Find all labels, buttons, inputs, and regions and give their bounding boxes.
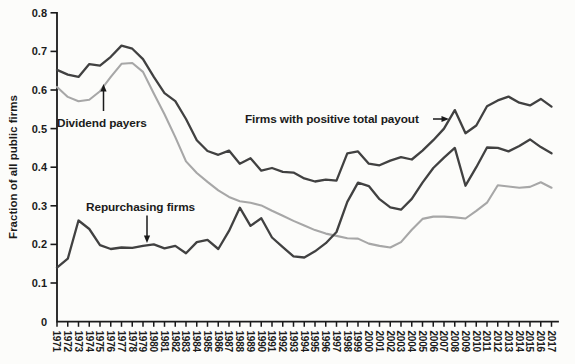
x-tick-label: 2016 <box>535 331 546 353</box>
x-tick-label: 1989 <box>245 331 256 353</box>
repurchasing-firms-label: Repurchasing firms <box>86 200 195 214</box>
x-tick-label: 1994 <box>299 331 310 353</box>
x-tick-label: 1992 <box>277 331 288 353</box>
x-tick-label: 1980 <box>148 331 159 353</box>
x-tick-label: 1993 <box>288 331 299 353</box>
y-axis-title: Fraction of all public firms <box>7 95 19 239</box>
x-tick-label: 2005 <box>417 331 428 353</box>
x-tick-label: 2012 <box>492 331 503 353</box>
x-tick-label: 2017 <box>546 331 557 353</box>
x-tick-label: 2009 <box>460 331 471 353</box>
y-tick-label: 0.6 <box>32 84 47 96</box>
x-tick-label: 1977 <box>116 331 127 353</box>
x-tick-label: 1972 <box>62 331 73 353</box>
x-tick-label: 1979 <box>137 331 148 353</box>
positive-total-payout-label: Firms with positive total payout <box>245 112 419 126</box>
x-tick-label: 2008 <box>449 331 460 353</box>
plot-svg: 00.10.20.30.40.50.60.70.8197119721973197… <box>0 0 575 364</box>
y-tick-label: 0.5 <box>32 123 47 135</box>
y-tick-label: 0.7 <box>32 45 47 57</box>
x-tick-label: 1978 <box>127 331 138 353</box>
y-tick-label: 0.3 <box>32 200 47 212</box>
y-tick-label: 0 <box>41 316 47 328</box>
x-tick-label: 1987 <box>223 331 234 353</box>
x-tick-label: 2007 <box>438 331 449 353</box>
x-tick-label: 2004 <box>406 331 417 353</box>
dividend-payers-line <box>57 63 552 248</box>
x-tick-label: 2006 <box>428 331 439 353</box>
x-tick-label: 1976 <box>105 331 116 353</box>
x-tick-label: 1995 <box>309 331 320 353</box>
x-tick-label: 1988 <box>234 331 245 353</box>
x-tick-label: 1997 <box>331 331 342 353</box>
x-tick-label: 1999 <box>352 331 363 353</box>
dividend-payers-label: Dividend payers <box>57 116 147 130</box>
x-tick-label: 2013 <box>503 331 514 353</box>
payout-fraction-chart: 00.10.20.30.40.50.60.70.8197119721973197… <box>0 0 575 364</box>
x-tick-label: 1991 <box>266 331 277 353</box>
x-tick-label: 2011 <box>481 331 492 353</box>
x-tick-label: 2001 <box>374 331 385 353</box>
y-tick-label: 0.2 <box>32 238 47 250</box>
axes <box>57 13 558 322</box>
x-tick-label: 1996 <box>320 331 331 353</box>
x-tick-label: 1974 <box>84 331 95 353</box>
x-tick-label: 1998 <box>342 331 353 353</box>
y-tick-label: 0.4 <box>32 161 48 173</box>
x-tick-label: 1985 <box>202 331 213 353</box>
x-tick-label: 2015 <box>524 331 535 353</box>
x-tick-label: 2000 <box>363 331 374 353</box>
x-tick-label: 2010 <box>471 331 482 353</box>
x-tick-label: 1990 <box>256 331 267 353</box>
y-tick-label: 0.1 <box>32 277 47 289</box>
x-tick-label: 1984 <box>191 331 202 353</box>
x-tick-label: 1975 <box>94 331 105 353</box>
x-tick-label: 1971 <box>51 331 62 353</box>
x-tick-label: 1982 <box>170 331 181 353</box>
y-tick-label: 0.8 <box>32 7 47 19</box>
x-tick-label: 1983 <box>180 331 191 353</box>
x-tick-label: 1986 <box>213 331 224 353</box>
x-tick-label: 2002 <box>385 331 396 353</box>
x-tick-label: 1981 <box>159 331 170 353</box>
x-tick-label: 1973 <box>73 331 84 353</box>
x-tick-label: 2003 <box>395 331 406 353</box>
repurchasing-firms-arrow-head <box>144 236 150 244</box>
x-tick-label: 2014 <box>514 331 525 353</box>
